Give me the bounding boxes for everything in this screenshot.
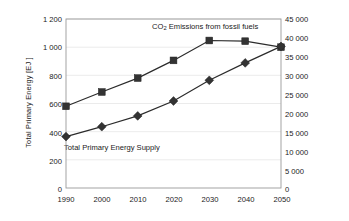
dual-axis-energy-emissions-chart: Total Primary Energy [EJ ] CO 2 Emission… [0, 0, 349, 221]
plot-area [0, 0, 349, 221]
